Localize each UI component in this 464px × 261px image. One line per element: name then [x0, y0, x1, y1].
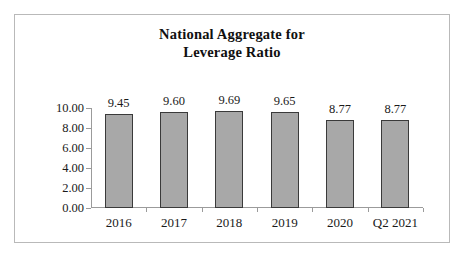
x-axis-category-label: Q2 2021 — [373, 215, 418, 231]
x-axis-tick — [423, 208, 424, 212]
y-axis-tick — [86, 148, 91, 149]
y-axis-tick — [86, 208, 91, 209]
y-axis-tick — [86, 108, 91, 109]
bar-group: 8.772020 — [326, 108, 354, 208]
bar-value-label: 9.45 — [108, 96, 130, 111]
bar-group: 8.77Q2 2021 — [381, 108, 409, 208]
y-axis-tick-label: 8.00 — [62, 121, 84, 136]
bar-group: 9.602017 — [160, 108, 188, 208]
bar-group: 9.692018 — [215, 108, 243, 208]
x-axis-category-label: 2020 — [327, 215, 353, 231]
y-axis-tick — [86, 168, 91, 169]
y-axis-tick-label: 0.00 — [62, 201, 84, 216]
bar[interactable] — [215, 111, 243, 208]
y-axis-tick-label: 10.00 — [56, 101, 84, 116]
chart-title: National Aggregate for Leverage Ratio — [15, 25, 449, 61]
x-axis-tick — [257, 208, 258, 212]
x-axis-category-label: 2017 — [161, 215, 187, 231]
bar-value-label: 9.69 — [218, 93, 240, 108]
x-axis-tick — [202, 208, 203, 212]
bar-value-label: 9.60 — [163, 94, 185, 109]
y-axis-tick — [86, 188, 91, 189]
bar[interactable] — [105, 114, 133, 209]
chart-title-line-1: National Aggregate for — [15, 25, 449, 43]
bar-value-label: 9.65 — [274, 94, 296, 109]
chart-figure: National Aggregate for Leverage Ratio 0.… — [14, 14, 450, 243]
chart-title-line-2: Leverage Ratio — [15, 43, 449, 61]
y-axis-tick — [86, 128, 91, 129]
y-axis-tick-label: 2.00 — [62, 181, 84, 196]
x-axis-category-label: 2018 — [216, 215, 242, 231]
y-axis-line — [91, 108, 92, 208]
plot-area: 0.002.004.006.008.0010.00 9.4520169.6020… — [91, 108, 423, 208]
bar-group: 9.452016 — [105, 108, 133, 208]
bar[interactable] — [381, 120, 409, 208]
bar-value-label: 8.77 — [384, 102, 406, 117]
x-axis-tick — [146, 208, 147, 212]
x-axis-tick — [312, 208, 313, 212]
bar[interactable] — [271, 112, 299, 209]
x-axis-category-label: 2016 — [106, 215, 132, 231]
bar-value-label: 8.77 — [329, 102, 351, 117]
x-axis-tick — [368, 208, 369, 212]
y-axis-tick-label: 4.00 — [62, 161, 84, 176]
bar[interactable] — [160, 112, 188, 208]
bar[interactable] — [326, 120, 354, 208]
y-axis-tick-label: 6.00 — [62, 141, 84, 156]
x-axis-category-label: 2019 — [272, 215, 298, 231]
bar-group: 9.652019 — [271, 108, 299, 208]
